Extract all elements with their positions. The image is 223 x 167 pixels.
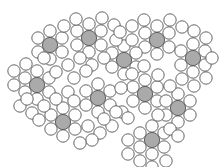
small-disk	[126, 34, 138, 46]
large-disk	[137, 86, 152, 101]
large-disk	[29, 77, 44, 92]
small-disk	[74, 137, 86, 149]
small-disk	[115, 82, 127, 94]
small-disk	[21, 93, 33, 105]
small-disk	[164, 14, 176, 26]
small-disk	[62, 59, 74, 71]
large-disk	[55, 114, 70, 129]
small-disk	[172, 130, 184, 142]
small-disk	[45, 123, 57, 135]
small-disk	[176, 21, 188, 33]
small-disk	[151, 20, 163, 32]
small-disk	[126, 68, 138, 80]
small-disk	[160, 155, 172, 167]
small-disk	[110, 106, 122, 118]
small-disk	[57, 130, 69, 142]
small-disk	[134, 127, 146, 139]
small-disk	[187, 38, 199, 50]
small-disk	[188, 80, 200, 92]
small-disk	[163, 27, 175, 39]
small-disk	[32, 32, 44, 44]
small-disk	[104, 85, 116, 97]
small-disk	[138, 14, 150, 26]
small-disk	[44, 25, 56, 37]
small-disk	[82, 120, 94, 132]
small-disk	[86, 134, 98, 146]
large-disk	[81, 30, 96, 45]
small-disk	[80, 99, 92, 111]
small-disk	[146, 148, 158, 160]
small-disk	[71, 25, 83, 37]
small-disk	[38, 100, 50, 112]
small-disk	[175, 59, 187, 71]
small-disk	[130, 47, 142, 59]
small-disk	[19, 72, 31, 84]
small-disk	[95, 25, 107, 37]
large-disk	[149, 32, 164, 47]
small-disk	[70, 13, 82, 25]
small-disk	[151, 81, 163, 93]
small-disk	[80, 85, 92, 97]
small-disk	[176, 73, 188, 85]
small-disk	[114, 26, 126, 38]
small-disk	[50, 93, 62, 105]
large-disk	[90, 90, 105, 105]
packing-diagram	[0, 0, 223, 167]
small-disk	[184, 109, 196, 121]
small-disk	[127, 81, 139, 93]
small-disk	[38, 52, 50, 64]
small-disk	[71, 39, 83, 51]
small-disk	[68, 95, 80, 107]
small-disk	[20, 58, 32, 70]
small-disk	[50, 66, 62, 78]
small-disk	[33, 114, 45, 126]
large-disk	[42, 37, 57, 52]
small-disk	[122, 112, 134, 124]
small-disk	[152, 69, 164, 81]
small-disk	[68, 72, 80, 84]
small-disk	[163, 41, 175, 53]
small-disk	[126, 20, 138, 32]
small-disk	[69, 123, 81, 135]
small-disk	[122, 134, 134, 146]
small-disk	[139, 102, 151, 114]
small-disk	[158, 141, 170, 153]
small-disk	[58, 20, 70, 32]
small-disk	[98, 113, 110, 125]
small-disk	[151, 48, 163, 60]
small-disk	[95, 39, 107, 51]
small-disk	[56, 32, 68, 44]
small-disk	[160, 95, 172, 107]
large-disk	[170, 100, 185, 115]
small-disk	[56, 46, 68, 58]
large-disk	[185, 50, 200, 65]
small-disk	[139, 74, 151, 86]
small-disk	[134, 141, 146, 153]
small-disk	[175, 45, 187, 57]
small-disk	[74, 52, 86, 64]
small-disk	[122, 148, 134, 160]
small-disk	[146, 120, 158, 132]
small-disk	[188, 25, 200, 37]
small-disk	[138, 60, 150, 72]
small-disk	[69, 109, 81, 121]
small-disk	[206, 52, 218, 64]
small-disk	[96, 12, 108, 24]
small-disk	[83, 18, 95, 30]
small-disk	[134, 155, 146, 167]
small-disk	[139, 27, 151, 39]
small-disk	[31, 65, 43, 77]
large-disk	[144, 132, 159, 147]
small-disk	[8, 79, 20, 91]
packing-figure	[0, 0, 223, 167]
small-disk	[98, 52, 110, 64]
small-disk	[127, 95, 139, 107]
small-disk	[80, 65, 92, 77]
small-disk	[200, 72, 212, 84]
small-disk	[8, 65, 20, 77]
small-disk	[164, 80, 176, 92]
large-disk	[116, 52, 131, 67]
small-disk	[200, 32, 212, 44]
small-disk	[184, 95, 196, 107]
small-disk	[152, 109, 164, 121]
